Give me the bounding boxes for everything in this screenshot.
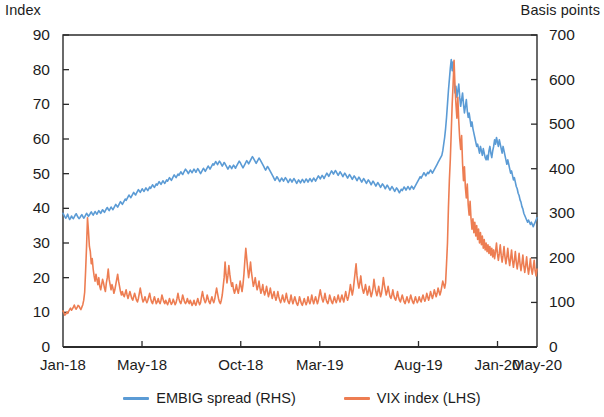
legend-swatch-icon (344, 397, 370, 400)
x-axis-tick: Aug-19 (374, 357, 464, 372)
y-axis-right-tick: 200 (549, 250, 575, 266)
x-axis-tick: Mar-19 (275, 357, 365, 372)
y-axis-right-tick: 400 (549, 161, 575, 177)
y-axis-left-tick: 60 (8, 131, 50, 147)
chart-container: Index Basis points 010203040506070809001… (0, 0, 604, 417)
x-axis-tick: Jan-18 (18, 357, 108, 372)
legend-label: EMBIG spread (RHS) (156, 390, 295, 406)
y-axis-right-tick: 600 (549, 72, 575, 88)
x-axis-tick: May-18 (97, 357, 187, 372)
y-axis-left-tick: 10 (8, 304, 50, 320)
plot-area (0, 0, 604, 417)
series-line (63, 60, 537, 315)
legend-label: VIX index (LHS) (377, 390, 481, 406)
legend-item[interactable]: EMBIG spread (RHS) (123, 390, 295, 406)
y-axis-right-tick: 700 (549, 27, 575, 43)
legend-swatch-icon (123, 397, 149, 400)
y-axis-left-tick: 30 (8, 235, 50, 251)
y-axis-left-tick: 0 (8, 339, 50, 355)
series-line (63, 60, 537, 227)
y-axis-left-tick: 90 (8, 27, 50, 43)
y-axis-left-tick: 40 (8, 200, 50, 216)
y-axis-left-tick: 50 (8, 166, 50, 182)
legend-item[interactable]: VIX index (LHS) (344, 390, 481, 406)
y-axis-right-tick: 300 (549, 205, 575, 221)
chart-legend: EMBIG spread (RHS)VIX index (LHS) (0, 390, 604, 406)
y-axis-right-tick: 500 (549, 116, 575, 132)
y-axis-left-tick: 80 (8, 62, 50, 78)
x-axis-tick: Oct-18 (196, 357, 286, 372)
y-axis-left-tick: 70 (8, 96, 50, 112)
y-axis-right-tick: 100 (549, 294, 575, 310)
y-axis-right-tick: 0 (549, 339, 558, 355)
y-axis-left-tick: 20 (8, 270, 50, 286)
x-axis-tick: May-20 (492, 357, 582, 372)
